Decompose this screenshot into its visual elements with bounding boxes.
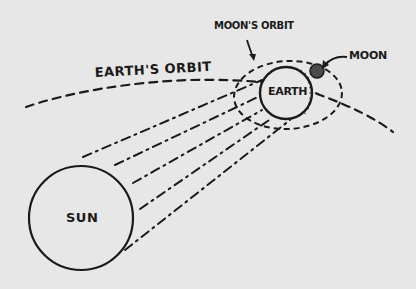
earth-label: EARTH: [268, 86, 307, 97]
sun-ray-2: [115, 96, 260, 165]
moon-label: MOON: [349, 50, 387, 61]
sun-ray-4: [140, 118, 272, 209]
moons-orbit-label: MOON'S ORBIT: [214, 21, 294, 31]
sun-label: SUN: [66, 211, 98, 224]
sun-ray-1: [83, 80, 262, 157]
moon-circle: [310, 64, 324, 78]
sun-earth-moon-diagram: EARTH'S ORBIT MOON'S ORBIT MOON EARTH SU…: [0, 0, 416, 289]
moons-orbit-arrowhead: [249, 54, 256, 61]
sun-ray-5: [125, 120, 290, 250]
moon-arrow: [325, 57, 347, 65]
diagram-drawing: [0, 0, 416, 289]
